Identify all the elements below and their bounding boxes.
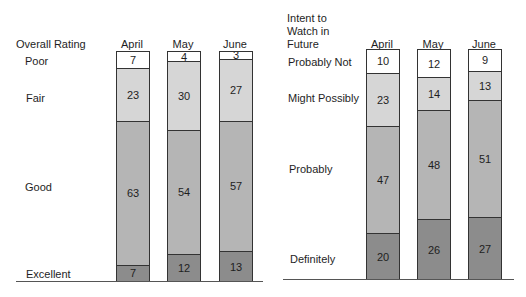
intent-title-line-2: Watch in [287, 25, 329, 37]
intent-title-line-3: Future [287, 38, 319, 50]
category-label-probably-not: Probably Not [288, 56, 352, 68]
bar-segment-might-possibly: 14 [418, 77, 450, 109]
bar-segment-might-possibly: 23 [367, 73, 399, 126]
bar-segment-probably: 47 [367, 126, 399, 234]
bar-segment-probably-not: 9 [469, 50, 501, 71]
bar-segment-good: 63 [117, 121, 149, 265]
intent-title-line-1: Intent to [287, 12, 327, 24]
category-label-poor: Poor [25, 55, 48, 67]
month-label-may: May [163, 38, 203, 50]
bar-segment-might-possibly: 13 [469, 71, 501, 101]
category-label-probably: Probably [289, 163, 332, 175]
category-label-fair: Fair [26, 92, 45, 104]
bar-segment-fair: 30 [168, 61, 200, 130]
bar-segment-definitely: 26 [418, 219, 450, 279]
bar-segment-poor: 7 [117, 52, 149, 68]
bar-segment-good: 54 [168, 130, 200, 254]
bar-segment-probably-not: 10 [367, 50, 399, 73]
month-label-april: April [112, 38, 152, 50]
stacked-bar-may: 12144826 [417, 49, 451, 280]
right-baseline [283, 279, 514, 280]
overall-rating-title: Overall Rating [16, 38, 86, 50]
bar-segment-poor: 3 [220, 52, 252, 59]
bar-segment-good: 57 [220, 121, 252, 252]
category-label-excellent: Excellent [26, 268, 71, 280]
category-label-definitely: Definitely [290, 253, 335, 265]
category-label-might-possibly: Might Possibly [288, 92, 359, 104]
bar-segment-probably: 48 [418, 110, 450, 220]
bar-segment-definitely: 20 [367, 233, 399, 279]
category-label-good: Good [25, 181, 52, 193]
bar-segment-probably-not: 12 [418, 50, 450, 77]
stacked-bar-may: 4305412 [167, 51, 201, 282]
bar-segment-probably: 51 [469, 100, 501, 217]
left-baseline [16, 281, 263, 282]
bar-segment-poor: 4 [168, 52, 200, 61]
bar-segment-excellent: 12 [168, 254, 200, 281]
bar-segment-fair: 27 [220, 59, 252, 121]
bar-segment-excellent: 13 [220, 251, 252, 281]
month-label-june: June [215, 38, 255, 50]
bar-segment-excellent: 7 [117, 265, 149, 281]
stacked-bar-june: 3275713 [219, 51, 253, 282]
bar-segment-fair: 23 [117, 68, 149, 121]
stacked-bar-april: 10234720 [366, 49, 400, 280]
bar-segment-definitely: 27 [469, 217, 501, 279]
stacked-bar-june: 9135127 [468, 49, 502, 280]
stacked-bar-april: 723637 [116, 51, 150, 282]
